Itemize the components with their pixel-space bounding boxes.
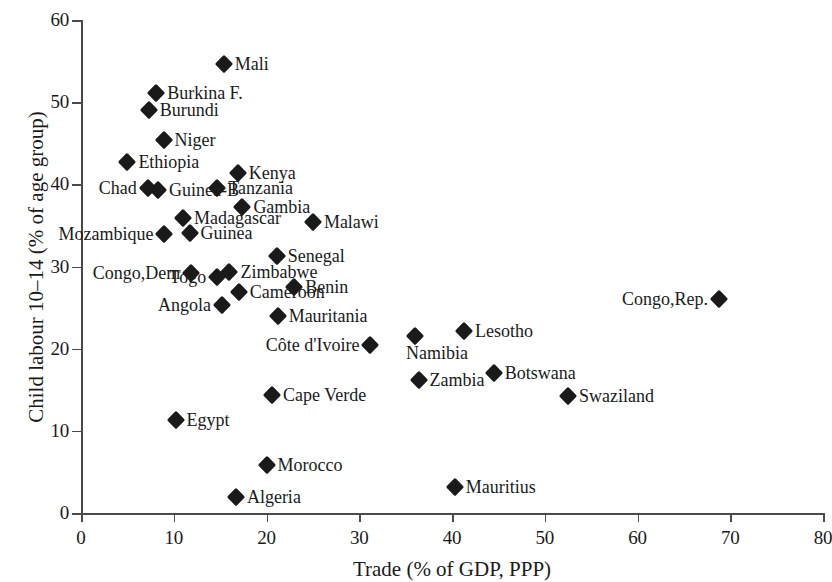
data-point-label: Tanzania	[228, 178, 293, 199]
data-point-marker	[257, 455, 275, 473]
y-axis-title: Child labour 10–14 (% of age group)	[24, 111, 49, 422]
data-point-label: Zambia	[430, 369, 485, 390]
x-tick	[545, 513, 547, 522]
x-tick-label: 40	[443, 527, 462, 549]
x-tick-label: 70	[721, 527, 740, 549]
x-tick-label: 20	[257, 527, 276, 549]
x-tick-label: 10	[164, 527, 183, 549]
data-point-label: Malawi	[324, 212, 379, 233]
y-tick	[72, 267, 81, 269]
data-point-marker	[213, 296, 231, 314]
data-point-marker	[118, 153, 136, 171]
data-point-label: Mali	[235, 53, 269, 74]
y-tick	[72, 431, 81, 433]
y-tick	[72, 102, 81, 104]
x-axis-title: Trade (% of GDP, PPP)	[353, 557, 551, 582]
data-point-marker	[227, 488, 245, 506]
data-point-label: Congo,Dem	[93, 263, 181, 284]
data-point-marker	[559, 386, 577, 404]
data-point-label: Ethiopia	[138, 152, 199, 173]
data-point-marker	[409, 371, 427, 389]
y-tick	[72, 349, 81, 351]
y-tick-label: 0	[35, 502, 69, 524]
data-point-label: Mauritania	[289, 305, 368, 326]
data-point-marker	[455, 322, 473, 340]
x-tick	[174, 513, 176, 522]
data-point-label: Botswana	[505, 363, 576, 384]
y-tick	[72, 20, 81, 22]
data-point-marker	[446, 478, 464, 496]
data-point-marker	[710, 289, 728, 307]
data-point-label: Burundi	[160, 99, 219, 120]
data-point-label: Congo,Rep.	[622, 288, 708, 309]
x-tick	[452, 513, 454, 522]
data-point-marker	[485, 364, 503, 382]
x-tick	[730, 513, 732, 522]
x-tick	[81, 513, 83, 522]
data-point-marker	[361, 335, 379, 353]
data-point-label: Angola	[158, 295, 211, 316]
x-tick	[638, 513, 640, 522]
x-tick	[267, 513, 269, 522]
y-tick-label: 60	[35, 9, 69, 31]
y-tick-label: 10	[35, 420, 69, 442]
data-point-label: Namibia	[406, 343, 468, 364]
data-point-label: Mauritius	[466, 476, 536, 497]
x-tick	[823, 513, 825, 522]
data-point-marker	[215, 54, 233, 72]
data-point-label: Cape Verde	[283, 384, 366, 405]
x-tick-label: 0	[76, 527, 85, 549]
data-point-label: Côte d'Ivoire	[266, 334, 360, 355]
data-point-label: Egypt	[187, 410, 230, 431]
y-tick	[72, 184, 81, 186]
data-point-marker	[229, 283, 247, 301]
data-point-label: Chad	[99, 178, 137, 199]
data-point-label: Togo	[170, 267, 207, 288]
x-tick-label: 80	[814, 527, 832, 549]
data-point-label: Cameroon	[250, 281, 325, 302]
data-point-label: Lesotho	[475, 321, 533, 342]
data-point-marker	[154, 131, 172, 149]
x-tick-label: 30	[350, 527, 369, 549]
data-point-label: Guinea	[201, 222, 253, 243]
data-point-marker	[140, 100, 158, 118]
y-tick-label: 50	[35, 91, 69, 113]
data-point-label: Niger	[175, 129, 216, 150]
data-point-marker	[155, 224, 173, 242]
data-point-marker	[263, 385, 281, 403]
data-point-label: Algeria	[247, 487, 301, 508]
data-point-marker	[268, 307, 286, 325]
x-tick-label: 60	[628, 527, 647, 549]
data-point-label: Morocco	[278, 454, 343, 475]
data-point-label: Swaziland	[579, 385, 654, 406]
data-point-marker	[166, 411, 184, 429]
y-axis-line	[81, 20, 83, 513]
data-point-label: Mozambique	[58, 223, 153, 244]
x-tick-label: 50	[535, 527, 554, 549]
x-tick	[359, 513, 361, 522]
y-tick	[72, 513, 81, 515]
